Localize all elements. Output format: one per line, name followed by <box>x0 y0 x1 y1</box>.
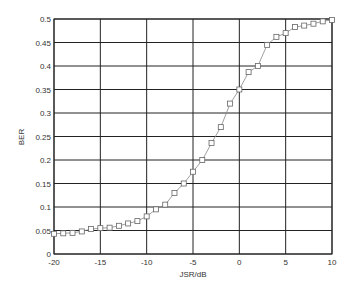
y-tick-label: 0.1 <box>40 203 52 212</box>
square-marker-icon <box>79 229 84 234</box>
square-marker-icon <box>107 225 112 230</box>
square-marker-icon <box>52 231 57 236</box>
square-marker-icon <box>116 223 121 228</box>
grid-lines <box>54 19 332 254</box>
square-marker-icon <box>246 70 251 75</box>
y-tick-label: 0.15 <box>35 180 51 189</box>
x-tick-label: -20 <box>48 258 60 267</box>
square-marker-icon <box>89 227 94 232</box>
y-tick-label: 0.4 <box>40 62 52 71</box>
y-tick-label: 0.05 <box>35 227 51 236</box>
square-marker-icon <box>191 169 196 174</box>
square-marker-icon <box>135 219 140 224</box>
square-marker-icon <box>70 230 75 235</box>
square-marker-icon <box>274 34 279 39</box>
square-marker-icon <box>292 24 297 29</box>
x-tick-label: 5 <box>283 258 288 267</box>
square-marker-icon <box>320 19 325 24</box>
y-tick-label: 0.3 <box>40 109 52 118</box>
y-tick-label: 0.2 <box>40 156 52 165</box>
y-axis-label: BER <box>17 129 26 146</box>
square-marker-icon <box>265 42 270 47</box>
x-tick-label: -5 <box>189 258 197 267</box>
y-tick-label: 0.5 <box>40 15 52 24</box>
square-marker-icon <box>163 202 168 207</box>
square-marker-icon <box>172 190 177 195</box>
y-axis-ticks: 00.050.10.150.20.250.30.350.40.450.5 <box>35 15 51 259</box>
square-marker-icon <box>330 17 335 22</box>
y-tick-label: 0.35 <box>35 86 51 95</box>
square-marker-icon <box>181 181 186 186</box>
square-marker-icon <box>144 214 149 219</box>
square-marker-icon <box>200 158 205 163</box>
square-marker-icon <box>228 101 233 106</box>
x-tick-label: 0 <box>237 258 242 267</box>
x-axis-ticks: -20-15-10-50510 <box>48 258 337 267</box>
square-marker-icon <box>237 87 242 92</box>
square-marker-icon <box>61 231 66 236</box>
square-marker-icon <box>311 21 316 26</box>
square-marker-icon <box>255 64 260 69</box>
x-tick-label: 10 <box>328 258 337 267</box>
x-tick-label: -10 <box>141 258 153 267</box>
square-marker-icon <box>209 141 214 146</box>
square-marker-icon <box>98 226 103 231</box>
y-tick-label: 0.25 <box>35 133 51 142</box>
square-marker-icon <box>153 207 158 212</box>
square-marker-icon <box>126 221 131 226</box>
x-tick-label: -15 <box>95 258 107 267</box>
x-axis-label: JSR/dB <box>179 270 206 279</box>
y-tick-label: 0.45 <box>35 39 51 48</box>
square-marker-icon <box>218 125 223 130</box>
square-marker-icon <box>302 23 307 28</box>
square-marker-icon <box>283 31 288 36</box>
ber-vs-jsr-chart: 00.050.10.150.20.250.30.350.40.450.5 -20… <box>0 0 349 286</box>
